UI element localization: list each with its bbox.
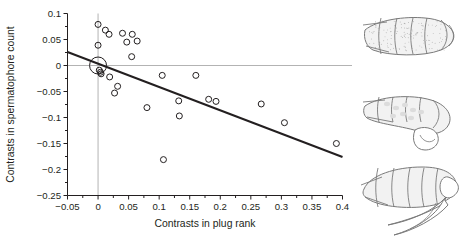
spot-marking xyxy=(384,102,390,106)
data-point xyxy=(129,54,135,60)
stipple-dot xyxy=(421,25,422,26)
spot-marking xyxy=(400,112,406,116)
stipple-dot xyxy=(369,31,370,32)
stipple-dot xyxy=(386,32,387,33)
stipple-dot xyxy=(375,21,376,22)
stipple-dot xyxy=(412,30,413,31)
data-point xyxy=(159,72,165,78)
stipple-dot xyxy=(444,50,445,51)
stipple-dot xyxy=(391,35,392,36)
stipple-dot xyxy=(423,26,424,27)
terminal-capsule xyxy=(440,177,458,198)
y-axis-tick-label: −0.15 xyxy=(37,138,61,149)
stipple-dot xyxy=(411,36,412,37)
stipple-dot xyxy=(381,44,382,45)
y-axis-tick-label: −0.25 xyxy=(37,190,61,201)
stipple-dot xyxy=(399,48,400,49)
data-point xyxy=(120,30,126,36)
stipple-dot xyxy=(417,32,418,33)
stipple-dot xyxy=(421,23,422,24)
stipple-dot xyxy=(408,42,409,43)
stipple-dot xyxy=(391,31,392,32)
stipple-dot xyxy=(373,43,374,44)
stipple-dot xyxy=(404,35,405,36)
stipple-dot xyxy=(426,40,427,41)
stipple-dot xyxy=(378,48,379,49)
stipple-dot xyxy=(407,33,408,34)
stipple-dot xyxy=(408,37,409,38)
stipple-dot xyxy=(432,48,433,49)
stipple-dot xyxy=(396,33,397,34)
stipple-dot xyxy=(418,23,419,24)
stipple-dot xyxy=(412,50,413,51)
insect-abdomen-middle xyxy=(363,97,450,150)
stipple-dot xyxy=(393,48,394,49)
x-axis-tick-label: 0.25 xyxy=(241,201,260,212)
stipple-dot xyxy=(411,33,412,34)
scatter-chart: −0.0500.050.10.150.20.250.30.350.40.10.0… xyxy=(0,0,464,246)
data-point xyxy=(176,98,182,104)
insect-abdomen-top xyxy=(363,18,454,55)
stipple-dot xyxy=(428,40,429,41)
stipple-dot xyxy=(404,46,405,47)
stipple-dot xyxy=(391,38,392,39)
stipple-dot xyxy=(433,33,434,34)
data-point xyxy=(129,31,135,37)
stipple-dot xyxy=(401,36,402,37)
x-axis-tick-label: 0.3 xyxy=(275,201,288,212)
stipple-dot xyxy=(439,42,440,43)
stipple-dot xyxy=(445,36,446,37)
stipple-dot xyxy=(375,47,376,48)
data-point xyxy=(213,98,219,104)
stipple-dot xyxy=(421,32,422,33)
x-axis-tick-label: 0.15 xyxy=(180,201,199,212)
data-point xyxy=(160,157,166,163)
stipple-dot xyxy=(440,28,441,29)
stipple-dot xyxy=(416,49,417,50)
stipple-dot xyxy=(422,36,423,37)
stipple-dot xyxy=(374,31,375,32)
stipple-dot xyxy=(390,28,391,29)
stipple-dot xyxy=(404,32,405,33)
stipple-dot xyxy=(422,29,423,30)
spot-marking xyxy=(393,106,399,110)
spot-marking xyxy=(410,108,416,112)
stipple-dot xyxy=(435,26,436,27)
stipple-dot xyxy=(412,48,413,49)
stipple-dot xyxy=(401,24,402,25)
stipple-dot xyxy=(402,37,403,38)
y-axis-tick-label: 0 xyxy=(56,60,61,71)
stipple-dot xyxy=(394,31,395,32)
data-point xyxy=(115,83,121,89)
insect-body-outline xyxy=(364,97,450,134)
x-axis-tick-label: 0.35 xyxy=(303,201,322,212)
stipple-dot xyxy=(390,49,391,50)
data-point xyxy=(206,96,212,102)
clasper-structure xyxy=(413,127,438,150)
stipple-dot xyxy=(394,21,395,22)
stipple-dot xyxy=(371,25,372,26)
data-point xyxy=(106,31,112,37)
stipple-dot xyxy=(371,39,372,40)
stipple-dot xyxy=(427,35,428,36)
stipple-dot xyxy=(439,33,440,34)
stipple-dot xyxy=(387,29,388,30)
stipple-dot xyxy=(383,40,384,41)
stipple-dot xyxy=(440,38,441,39)
stipple-dot xyxy=(400,22,401,23)
stipple-dot xyxy=(415,34,416,35)
data-point xyxy=(107,74,113,80)
stipple-dot xyxy=(406,50,407,51)
stipple-dot xyxy=(371,32,372,33)
stipple-dot xyxy=(401,27,402,28)
stipple-dot xyxy=(435,43,436,44)
stipple-dot xyxy=(396,48,397,49)
spot-marking xyxy=(390,114,396,118)
stipple-dot xyxy=(382,50,383,51)
y-axis-title: Contrasts in spermatophore count xyxy=(5,26,16,183)
stipple-dot xyxy=(413,38,414,39)
stipple-dot xyxy=(369,43,370,44)
stipple-dot xyxy=(411,29,412,30)
stipple-dot xyxy=(405,34,406,35)
stipple-dot xyxy=(439,49,440,50)
